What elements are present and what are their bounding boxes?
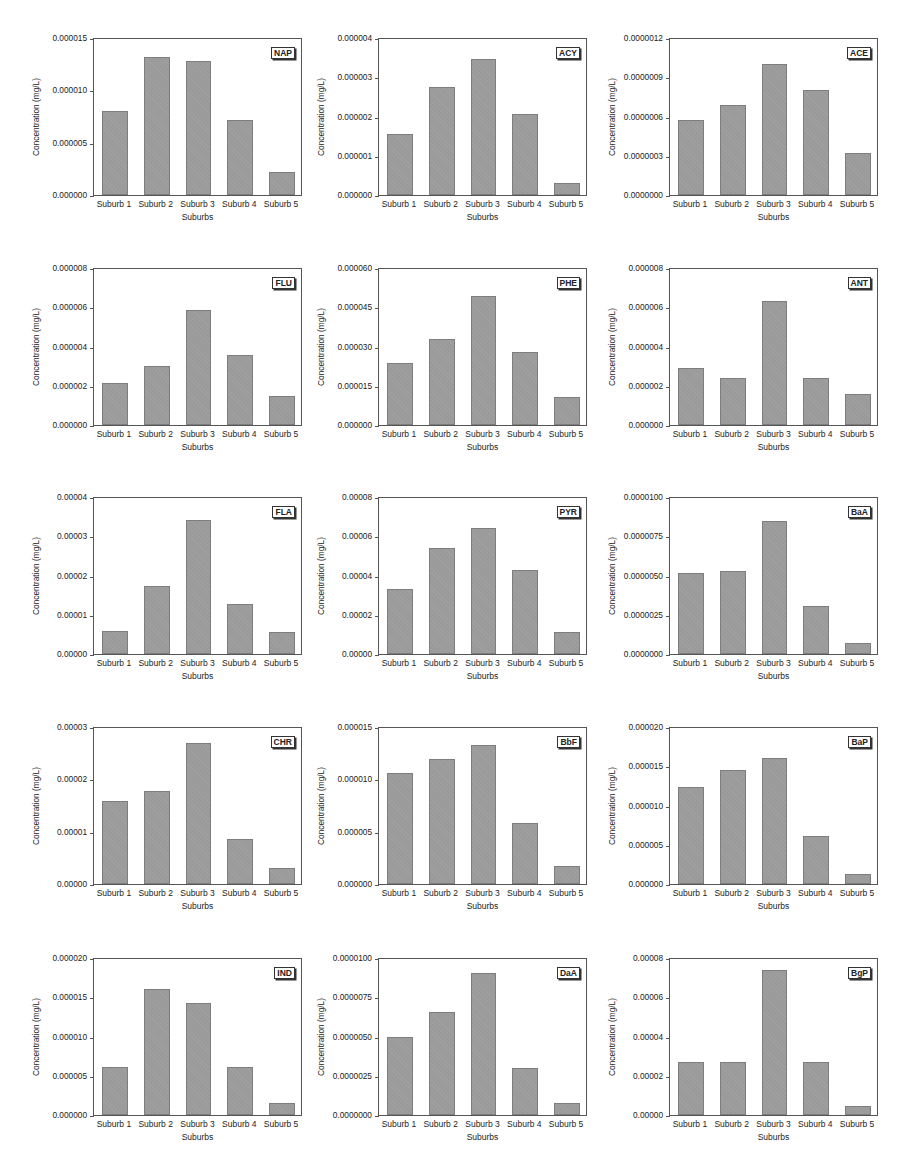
y-tick-label: 0.000020 — [593, 722, 663, 732]
bar — [678, 573, 704, 654]
y-tick — [375, 308, 379, 309]
y-axis-title: Concentration (mg/L) — [316, 506, 326, 646]
y-axis-title: Concentration (mg/L) — [607, 277, 617, 417]
y-tick-label: 0.0000075 — [593, 531, 663, 541]
bar — [803, 836, 829, 884]
y-tick — [666, 1038, 670, 1039]
bar — [387, 773, 413, 884]
bar — [554, 866, 580, 884]
y-tick-label: 0.000006 — [593, 302, 663, 312]
y-tick — [375, 728, 379, 729]
bar — [429, 759, 455, 884]
bar — [803, 606, 829, 654]
y-tick-label: 0.00002 — [17, 571, 87, 581]
x-tick-label: Suburb 5 — [835, 888, 879, 898]
x-axis-title: Suburbs — [669, 1132, 878, 1142]
bar — [227, 839, 253, 884]
y-tick-label: 0.000060 — [302, 263, 372, 273]
y-tick-label: 0.0000003 — [593, 151, 663, 161]
x-tick-label: Suburb 1 — [92, 429, 136, 439]
y-tick-label: 0.0000000 — [302, 1110, 372, 1120]
x-tick-label: Suburb 2 — [419, 1119, 463, 1129]
y-axis-title: Concentration (mg/L) — [607, 506, 617, 646]
y-tick-label: 0.000003 — [302, 72, 372, 82]
compound-label: FLU — [272, 277, 295, 289]
compound-label: NAP — [271, 47, 295, 59]
y-tick-label: 0.000000 — [17, 1110, 87, 1120]
y-tick — [666, 348, 670, 349]
compound-label: BaP — [848, 736, 871, 748]
x-axis-title: Suburbs — [93, 671, 302, 681]
bar — [429, 87, 455, 195]
x-tick-label: Suburb 3 — [461, 658, 505, 668]
x-tick-label: Suburb 3 — [176, 658, 220, 668]
bar — [144, 366, 170, 425]
y-tick-label: 0.000008 — [17, 263, 87, 273]
y-tick — [375, 498, 379, 499]
y-tick — [666, 39, 670, 40]
y-tick-label: 0.000002 — [17, 381, 87, 391]
bar — [186, 1003, 212, 1115]
bar — [803, 378, 829, 425]
bar — [227, 120, 253, 195]
y-tick-label: 0.00000 — [17, 879, 87, 889]
bar — [227, 604, 253, 654]
y-tick — [666, 1077, 670, 1078]
y-tick-label: 0.00001 — [17, 827, 87, 837]
y-tick — [90, 780, 94, 781]
y-tick-label: 0.0000025 — [593, 610, 663, 620]
bar — [720, 571, 746, 654]
y-tick — [375, 426, 379, 427]
y-tick-label: 0.000015 — [593, 761, 663, 771]
y-tick — [375, 833, 379, 834]
y-tick — [375, 118, 379, 119]
y-tick-label: 0.000015 — [302, 722, 372, 732]
compound-label: DaA — [557, 967, 580, 979]
x-tick-label: Suburb 4 — [793, 1119, 837, 1129]
y-tick — [90, 1116, 94, 1117]
x-tick-label: Suburb 4 — [502, 658, 546, 668]
y-tick-label: 0.00001 — [17, 610, 87, 620]
y-tick — [666, 196, 670, 197]
compound-label: CHR — [271, 736, 295, 748]
x-axis-title: Suburbs — [93, 442, 302, 452]
bar — [762, 970, 788, 1115]
bar — [845, 643, 871, 654]
y-tick-label: 0.000000 — [593, 879, 663, 889]
x-tick-label: Suburb 1 — [377, 429, 421, 439]
bar — [554, 183, 580, 195]
compound-label: ANT — [848, 277, 871, 289]
y-tick-label: 0.0000006 — [593, 112, 663, 122]
bar — [429, 339, 455, 425]
x-tick-label: Suburb 4 — [793, 658, 837, 668]
bar — [186, 520, 212, 654]
bar — [387, 134, 413, 195]
y-tick-label: 0.000000 — [302, 420, 372, 430]
bar — [720, 378, 746, 425]
y-tick-label: 0.000005 — [593, 840, 663, 850]
x-tick-label: Suburb 1 — [377, 1119, 421, 1129]
x-axis-title: Suburbs — [378, 212, 587, 222]
x-tick-label: Suburb 3 — [461, 199, 505, 209]
y-tick — [90, 885, 94, 886]
x-tick-label: Suburb 5 — [544, 429, 588, 439]
x-tick-label: Suburb 2 — [419, 888, 463, 898]
y-tick-label: 0.000045 — [302, 302, 372, 312]
x-tick-label: Suburb 1 — [377, 658, 421, 668]
y-tick — [90, 348, 94, 349]
bar — [720, 770, 746, 884]
y-tick — [90, 91, 94, 92]
y-tick-label: 0.00006 — [302, 531, 372, 541]
y-tick-label: 0.00004 — [593, 1032, 663, 1042]
bar — [845, 1106, 871, 1115]
compound-label: BgP — [848, 967, 871, 979]
y-tick — [666, 807, 670, 808]
bar — [227, 1067, 253, 1115]
bar — [471, 745, 497, 884]
y-tick — [375, 39, 379, 40]
bar — [845, 874, 871, 884]
x-tick-label: Suburb 4 — [217, 1119, 261, 1129]
y-tick — [666, 498, 670, 499]
y-tick-label: 0.000015 — [17, 992, 87, 1002]
y-tick-label: 0.00002 — [302, 610, 372, 620]
